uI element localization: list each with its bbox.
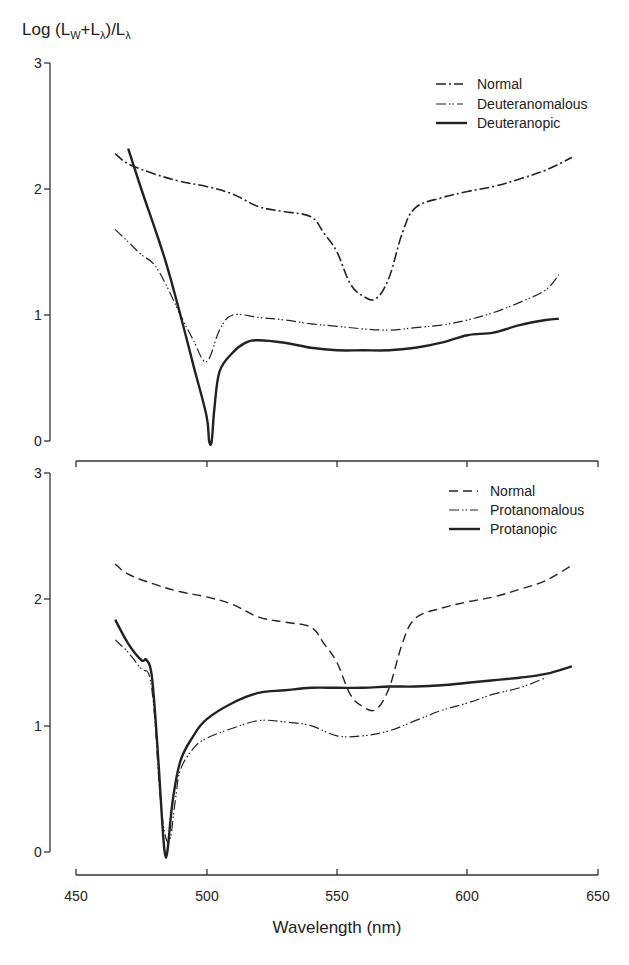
xtick-650: 650 — [586, 888, 610, 904]
top-ytick-0: 0 — [34, 433, 42, 449]
top-y-axis: 3 2 1 0 — [34, 55, 50, 449]
legend-deuteranomalous: Deuteranomalous — [477, 96, 588, 112]
y-axis-title: Log (LW+Lλ)/Lλ — [22, 20, 131, 41]
xtick-550: 550 — [325, 888, 349, 904]
figure: Log (LW+Lλ)/Lλ 3 2 1 0 Normal De — [0, 0, 629, 965]
bottom-ytick-2: 2 — [34, 591, 42, 607]
top-legend: Normal Deuteranomalous Deuteranopic — [436, 76, 588, 131]
curve-deuteranopic — [128, 149, 559, 445]
xtick-500: 500 — [195, 888, 219, 904]
curve-protanopic — [115, 620, 572, 858]
curve-deuteranomalous — [115, 229, 559, 361]
curve-normal — [115, 154, 572, 300]
curve-protanomalous — [115, 640, 546, 843]
bottom-x-axis: 450 500 550 600 650 Wavelength (nm) — [64, 869, 610, 937]
legend-normal-bottom: Normal — [490, 483, 535, 499]
legend-protanopic: Protanopic — [490, 521, 557, 537]
bottom-y-axis: 3 2 1 0 — [34, 465, 50, 860]
x-axis-title: Wavelength (nm) — [273, 918, 402, 937]
xtick-600: 600 — [455, 888, 479, 904]
bottom-ytick-0: 0 — [34, 844, 42, 860]
bottom-legend: Normal Protanomalous Protanopic — [449, 483, 584, 537]
bottom-curves — [115, 564, 572, 858]
top-ytick-1: 1 — [34, 307, 42, 323]
xtick-450: 450 — [64, 888, 88, 904]
top-x-axis — [76, 461, 598, 467]
top-curves — [115, 149, 572, 445]
top-panel: 3 2 1 0 Normal Deuteranomalous Deuterano… — [34, 55, 598, 467]
top-ytick-2: 2 — [34, 181, 42, 197]
bottom-ytick-1: 1 — [34, 718, 42, 734]
legend-normal-top: Normal — [477, 76, 522, 92]
bottom-ytick-3: 3 — [34, 465, 42, 481]
legend-protanomalous: Protanomalous — [490, 502, 584, 518]
bottom-panel: 3 2 1 0 450 500 550 600 650 Wavelength (… — [34, 465, 610, 937]
legend-deuteranopic: Deuteranopic — [477, 115, 560, 131]
top-ytick-3: 3 — [34, 55, 42, 71]
